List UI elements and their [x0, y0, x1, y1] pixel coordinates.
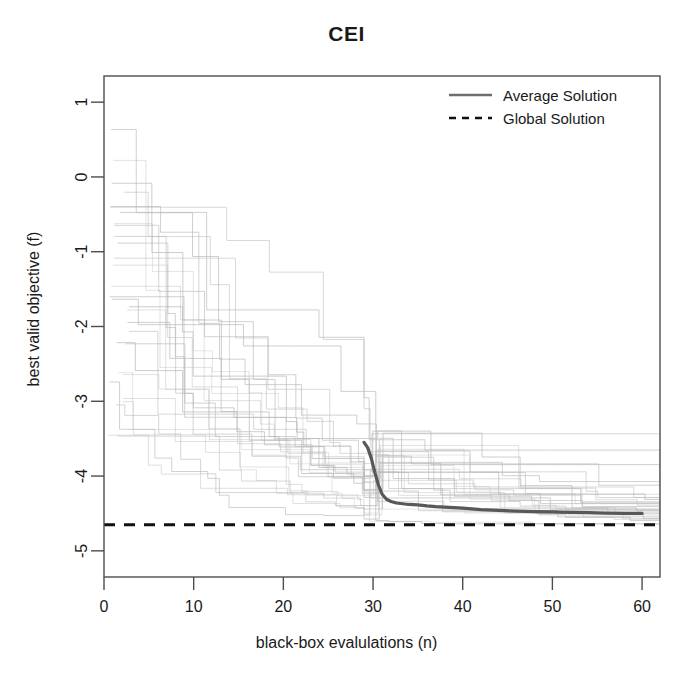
plot-canvas: 0102030405060 10-1-2-3-4-5 Average Solut… — [0, 0, 693, 684]
run-traces — [108, 130, 660, 524]
run-trace — [124, 192, 660, 515]
legend-label-average-solution: Average Solution — [503, 87, 617, 104]
x-axis-ticks: 0102030405060 — [100, 577, 652, 615]
y-tick-label: 1 — [73, 98, 90, 107]
run-trace — [113, 265, 660, 505]
x-tick-label: 40 — [454, 598, 472, 615]
y-tick-label: -5 — [73, 544, 90, 558]
legend: Average Solution Global Solution — [449, 87, 617, 127]
x-tick-label: 30 — [364, 598, 382, 615]
x-tick-label: 60 — [633, 598, 651, 615]
run-trace — [123, 375, 660, 521]
y-tick-label: -4 — [73, 469, 90, 483]
legend-label-global-solution: Global Solution — [503, 110, 605, 127]
y-tick-label: 0 — [73, 172, 90, 181]
x-tick-label: 50 — [543, 598, 561, 615]
x-tick-label: 0 — [100, 598, 109, 615]
y-tick-label: -1 — [73, 245, 90, 259]
run-trace — [123, 402, 660, 517]
y-axis-ticks: 10-1-2-3-4-5 — [73, 98, 104, 558]
x-tick-label: 20 — [274, 598, 292, 615]
run-trace — [114, 224, 660, 504]
y-tick-label: -2 — [73, 319, 90, 333]
x-tick-label: 10 — [185, 598, 203, 615]
y-tick-label: -3 — [73, 394, 90, 408]
chart-figure: CEI best valid objective (f) black-box e… — [0, 0, 693, 684]
run-trace — [114, 225, 660, 520]
